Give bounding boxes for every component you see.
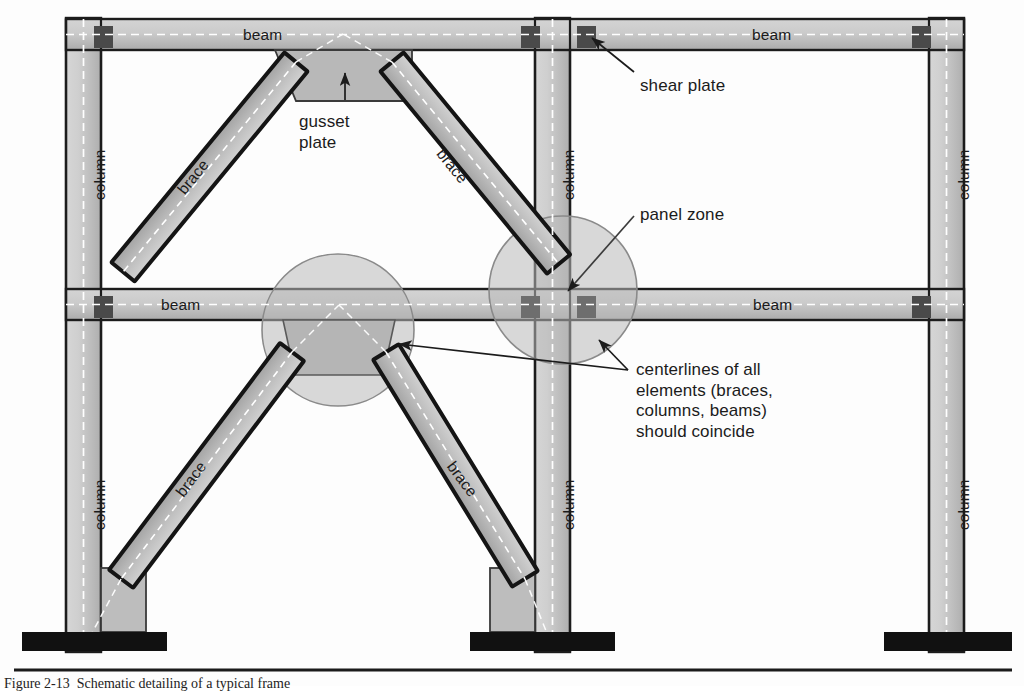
column-label-left-upper: column bbox=[91, 149, 110, 200]
base-plate-right bbox=[884, 632, 1012, 651]
shear-plate-mm-r bbox=[577, 296, 596, 318]
annotation-centerlines: centerlines of all elements (braces, col… bbox=[636, 360, 773, 443]
base-plate-middle bbox=[470, 632, 615, 651]
beam-label-top-left: beam bbox=[243, 26, 282, 45]
shear-plate-tm-r bbox=[577, 26, 596, 48]
figure-caption: Figure 2-13 Schematic detailing of a typ… bbox=[4, 676, 290, 692]
annotation-gusset-plate: gusset plate bbox=[299, 112, 350, 153]
beam-label-mid-left: beam bbox=[161, 296, 200, 315]
shear-plate-mm-l bbox=[521, 296, 540, 318]
base-plate-left bbox=[22, 632, 167, 651]
base-plates-group bbox=[22, 632, 1012, 651]
column-label-right-upper: column bbox=[955, 149, 974, 200]
column-label-right-lower: column bbox=[955, 479, 974, 530]
beam-label-top-right: beam bbox=[752, 26, 791, 45]
shear-plate-tr bbox=[912, 26, 931, 48]
column-label-mid-lower: column bbox=[560, 479, 579, 530]
annotation-shear-plate: shear plate bbox=[640, 76, 725, 97]
shear-plate-ml bbox=[94, 296, 113, 318]
shear-plate-tm-l bbox=[521, 26, 540, 48]
beam-label-mid-right: beam bbox=[753, 296, 792, 315]
column-label-left-lower: column bbox=[91, 479, 110, 530]
shear-plate-mr bbox=[912, 296, 931, 318]
annotation-panel-zone: panel zone bbox=[640, 205, 724, 226]
column-label-mid-upper: column bbox=[560, 149, 579, 200]
shear-plate-tl bbox=[94, 26, 113, 48]
